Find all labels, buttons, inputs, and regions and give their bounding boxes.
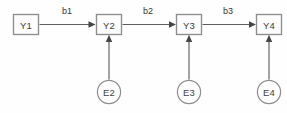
edge-label-b1: b1	[62, 6, 72, 16]
node-e3[interactable]: E3	[177, 80, 200, 103]
node-e2-label: E2	[103, 87, 115, 98]
edge-e4-to-y4	[266, 35, 272, 80]
node-y4-label: Y4	[263, 20, 275, 31]
node-y3[interactable]: Y3	[177, 15, 202, 35]
node-y1[interactable]: Y1	[14, 15, 39, 35]
node-y3-label: Y3	[183, 20, 195, 31]
edge-y2-to-y3	[123, 21, 177, 27]
node-y1-label: Y1	[20, 20, 32, 31]
node-y4[interactable]: Y4	[257, 15, 282, 35]
arrowhead-right-icon	[169, 21, 176, 27]
edge-e3-to-y3	[186, 35, 192, 80]
node-y2-label: Y2	[103, 20, 115, 31]
edge-e2-to-y2	[106, 35, 112, 80]
node-e3-label: E3	[183, 87, 195, 98]
arrowhead-right-icon	[249, 21, 256, 27]
node-e4[interactable]: E4	[257, 80, 280, 103]
arrowhead-up-icon	[186, 35, 192, 42]
path-diagram-svg: b1 b2 b3 Y1 Y2 Y3 Y4 E2 E3	[0, 0, 287, 113]
arrowhead-up-icon	[266, 35, 272, 42]
edge-label-b3: b3	[223, 6, 233, 16]
edge-y1-to-y2	[40, 21, 96, 27]
edge-y3-to-y4	[203, 21, 257, 27]
arrowhead-up-icon	[106, 35, 112, 42]
path-diagram-canvas: b1 b2 b3 Y1 Y2 Y3 Y4 E2 E3	[0, 0, 287, 113]
node-y2[interactable]: Y2	[97, 15, 122, 35]
arrowhead-right-icon	[89, 21, 96, 27]
node-e2[interactable]: E2	[97, 80, 120, 103]
node-e4-label: E4	[263, 87, 275, 98]
edge-label-b2: b2	[143, 6, 153, 16]
